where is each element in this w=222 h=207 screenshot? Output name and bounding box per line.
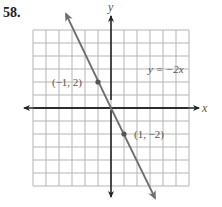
equation-label: y = −2x [147, 63, 184, 75]
point-neg1-2 [95, 79, 100, 84]
point-label-1-neg2: (1, −2) [134, 128, 164, 141]
line-y-neg2x [66, 14, 111, 108]
y-axis-label: y [107, 0, 114, 14]
x-axis-label: x [201, 101, 208, 115]
coordinate-plane: x y y = −2x (−1, 2) (1, −2) [0, 0, 222, 207]
point-label-neg1-2: (−1, 2) [52, 76, 82, 89]
point-1-neg2 [121, 131, 126, 136]
